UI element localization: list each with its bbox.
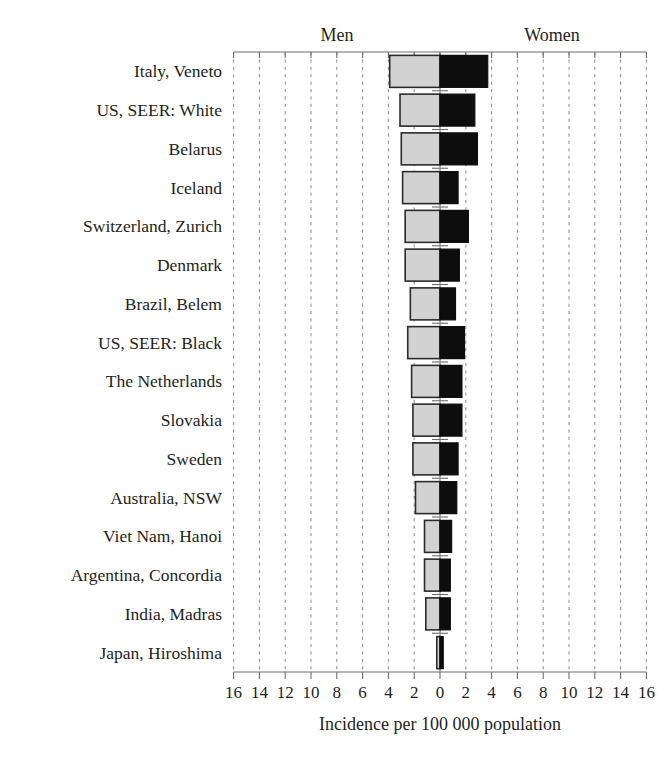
x-axis-tick-label: 16 (225, 683, 242, 702)
bar-women (440, 94, 475, 126)
bar-men (401, 133, 440, 165)
x-axis-tick-label: 12 (586, 683, 603, 702)
x-axis-tick-label: 0 (436, 683, 445, 702)
x-axis-tick-label: 8 (539, 683, 548, 702)
x-axis-tick-label: 4 (384, 683, 393, 702)
bar-men (412, 365, 440, 397)
bar-women (440, 404, 462, 436)
bar-women (440, 598, 450, 630)
bar-men (415, 482, 440, 514)
incidence-tornado-chart: MenWomen1614121086420246810121416Italy, … (0, 0, 670, 767)
category-label: Switzerland, Zurich (83, 216, 222, 236)
bar-women (440, 172, 458, 204)
bar-men (426, 598, 440, 630)
bar-women (440, 327, 465, 359)
category-label: India, Madras (125, 604, 222, 624)
bar-men (408, 327, 440, 359)
category-label: US, SEER: White (96, 100, 222, 120)
bar-men (413, 443, 440, 475)
category-label: Denmark (157, 255, 222, 275)
bar-women (440, 133, 477, 165)
chart-svg-canvas: MenWomen1614121086420246810121416Italy, … (0, 0, 670, 767)
category-label: Italy, Veneto (134, 61, 222, 81)
bar-men (410, 288, 440, 320)
bar-women (440, 637, 443, 669)
group-label-men: Men (321, 25, 354, 45)
bar-men (405, 249, 440, 281)
bar-men (403, 172, 440, 204)
bar-women (440, 249, 459, 281)
category-label: Brazil, Belem (125, 294, 223, 314)
category-label: US, SEER: Black (98, 333, 222, 353)
category-label: Australia, NSW (110, 488, 222, 508)
x-axis-tick-label: 10 (303, 683, 320, 702)
bar-men (400, 94, 440, 126)
x-axis-tick-label: 2 (462, 683, 471, 702)
category-label: Iceland (171, 178, 223, 198)
bar-women (440, 55, 488, 87)
x-axis-title: Incidence per 100 000 population (319, 714, 561, 734)
bar-men (390, 55, 440, 87)
category-label: The Netherlands (106, 371, 222, 391)
x-axis-tick-label: 6 (358, 683, 367, 702)
category-label: Slovakia (161, 410, 222, 430)
bar-men (405, 210, 440, 242)
x-axis-tick-label: 10 (561, 683, 578, 702)
x-axis-tick-label: 14 (612, 683, 630, 702)
category-label: Viet Nam, Hanoi (103, 526, 222, 546)
bar-women (440, 443, 458, 475)
x-axis-tick-label: 12 (277, 683, 294, 702)
bar-women (440, 520, 452, 552)
bar-men (413, 404, 440, 436)
bar-men (425, 559, 440, 591)
x-axis-tick-label: 14 (251, 683, 269, 702)
x-axis-tick-label: 4 (487, 683, 496, 702)
bar-men (425, 520, 440, 552)
category-label: Japan, Hiroshima (100, 643, 223, 663)
x-axis-tick-label: 8 (333, 683, 342, 702)
group-label-women: Women (524, 25, 580, 45)
bar-women (440, 288, 455, 320)
bar-women (440, 482, 457, 514)
x-axis-tick-label: 16 (638, 683, 655, 702)
x-axis-tick-label: 6 (513, 683, 522, 702)
bar-women (440, 210, 468, 242)
bar-women (440, 365, 462, 397)
category-label: Sweden (167, 449, 223, 469)
category-label: Belarus (169, 139, 223, 159)
category-label: Argentina, Concordia (71, 565, 223, 585)
bar-women (440, 559, 450, 591)
x-axis-tick-label: 2 (410, 683, 419, 702)
